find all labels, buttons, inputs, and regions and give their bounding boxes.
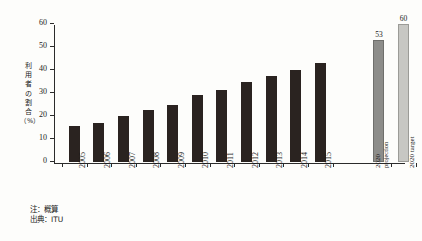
footnote-source: 出典：ITU [30, 215, 63, 225]
plot-area: 0102030405060 5360 [54, 25, 404, 163]
y-axis-title: 利 用 者 の 割 合 （%） [20, 62, 36, 126]
x-axis-label-2013: 2013 [275, 152, 284, 168]
y-axis-line [54, 25, 55, 164]
footnote-note: 注：概算 [30, 205, 63, 215]
y-axis-title-char-2: 者 [20, 80, 36, 89]
bar-value-label: 53 [375, 30, 383, 39]
bar-2011[interactable] [216, 90, 227, 162]
x-axis-label-2005: 2005 [78, 152, 87, 168]
y-axis-tick-label: 30 [39, 87, 47, 96]
y-axis-tick: 40 [50, 69, 54, 70]
x-axis-label-2011: 2011 [226, 152, 235, 168]
y-axis-tick: 60 [50, 23, 54, 24]
bar-2015[interactable] [315, 63, 326, 162]
y-axis-tick-label: 50 [39, 41, 47, 50]
x-axis-label-2020-projection: 2020 [374, 154, 382, 168]
bar-2014[interactable] [290, 70, 301, 162]
bar-value-label: 60 [400, 14, 408, 23]
x-axis-label-2012: 2012 [251, 152, 260, 168]
y-axis-title-char-4: 割 [20, 99, 36, 108]
y-axis-tick: 20 [50, 115, 54, 116]
y-axis-tick-label: 60 [39, 18, 47, 27]
bar-2013[interactable] [266, 76, 277, 162]
x-axis-tick [62, 163, 63, 167]
y-axis-title-char-3: の [20, 90, 36, 99]
x-axis-label-2014: 2014 [300, 152, 309, 168]
x-axis-label-2006: 2006 [103, 152, 112, 168]
y-axis-tick: 30 [50, 92, 54, 93]
chart-page: 利 用 者 の 割 合 （%） 0102030405060 5360 20052… [0, 0, 422, 241]
bar-2012[interactable] [241, 82, 252, 163]
footnotes: 注：概算 出典：ITU [30, 205, 63, 224]
x-axis-label-2015: 2015 [324, 152, 333, 168]
y-axis-title-char-5: 合 [20, 108, 36, 117]
y-axis-tick-label: 20 [39, 110, 47, 119]
x-axis-label-2020-projection: projection [382, 142, 389, 168]
bar-chart-figure: 利 用 者 の 割 合 （%） 0102030405060 5360 20052… [0, 0, 422, 241]
y-axis-tick-label: 40 [39, 64, 47, 73]
y-axis-tick: 0 [50, 161, 54, 162]
y-axis-title-char-0: 利 [20, 62, 36, 71]
x-axis-label-2009: 2009 [177, 152, 186, 168]
x-axis-label-2007: 2007 [128, 152, 137, 168]
x-axis-label-2020-target: 2020 target [408, 136, 416, 168]
y-axis-tick: 50 [50, 46, 54, 47]
y-axis-tick: 10 [50, 138, 54, 139]
y-axis-tick-label: 0 [43, 156, 47, 165]
x-axis-label-2010: 2010 [201, 152, 210, 168]
y-axis-tick-label: 10 [39, 133, 47, 142]
x-axis-label-2008: 2008 [152, 152, 161, 168]
y-axis-title-unit: （%） [20, 117, 36, 126]
x-axis-tick [391, 163, 392, 167]
y-axis-title-char-1: 用 [20, 71, 36, 80]
